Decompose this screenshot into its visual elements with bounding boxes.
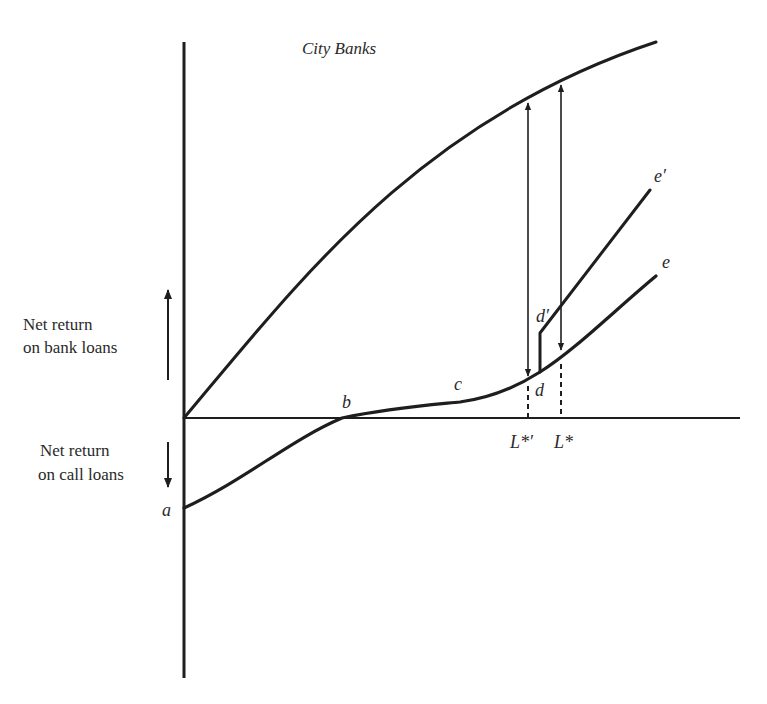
x-label-L-star-prime: L*′ bbox=[509, 432, 534, 452]
shifted-curve-dprime-eprime bbox=[540, 190, 650, 372]
label-net-return-bank-loans: Net return on bank loans bbox=[23, 315, 117, 357]
x-label-L-star: L* bbox=[553, 432, 573, 452]
point-label-c: c bbox=[454, 374, 462, 394]
city-banks-diagram: City Banks Net return on bank loans Net … bbox=[0, 0, 767, 704]
point-label-b: b bbox=[342, 392, 351, 412]
point-label-d-prime: d′ bbox=[536, 306, 550, 326]
point-label-a: a bbox=[162, 500, 171, 520]
diagram-title: City Banks bbox=[302, 39, 377, 58]
point-label-d: d bbox=[535, 380, 545, 400]
label-net-return-call-loans: Net return on call loans bbox=[38, 441, 124, 484]
point-label-e: e bbox=[662, 252, 670, 272]
total-return-curve bbox=[184, 42, 656, 418]
net-return-curve-abcde bbox=[184, 276, 656, 508]
point-label-e-prime: e′ bbox=[654, 166, 667, 186]
